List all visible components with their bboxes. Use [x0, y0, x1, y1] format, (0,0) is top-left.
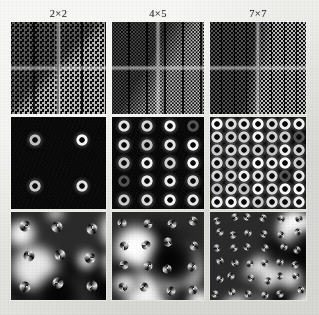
diffraction-spot: [117, 138, 130, 151]
diffraction-spot: [293, 170, 306, 183]
phase-vortex-singularity: [228, 231, 236, 239]
diffraction-spot: [265, 143, 278, 156]
diffraction-spot: [224, 143, 237, 156]
phase-vortex-singularity: [216, 275, 226, 285]
panel-far-field-4x5: [112, 117, 204, 209]
diffraction-spot: [117, 193, 130, 206]
panel-near-field-7x7: [210, 22, 306, 114]
diffraction-spot: [279, 157, 292, 170]
bright-cross-overlay: [11, 22, 106, 114]
column-header-row: 2×2 4×5 7×7: [11, 4, 306, 22]
diffraction-spot: [224, 170, 237, 183]
bright-cross-overlay: [210, 22, 306, 114]
column-header-7x7: 7×7: [210, 4, 306, 22]
diffraction-spot: [210, 143, 223, 156]
phase-vortex-singularity: [215, 227, 225, 237]
diffraction-spot: [163, 175, 176, 188]
panel-phase-map-2x2: [11, 212, 106, 300]
diffraction-spot: [252, 130, 265, 143]
phase-vortex-singularity: [243, 213, 253, 223]
row-phase-map: [11, 212, 306, 300]
diffraction-spot: [117, 120, 130, 133]
diffraction-spot: [265, 183, 278, 196]
diffraction-spot: [279, 183, 292, 196]
diffraction-spot: [210, 196, 223, 209]
diffraction-spot: [224, 130, 237, 143]
diffraction-spot: [186, 157, 199, 170]
diffraction-spot: [252, 196, 265, 209]
diffraction-spot: [252, 170, 265, 183]
diffraction-spot: [224, 183, 237, 196]
diffraction-spot: [140, 138, 153, 151]
diffraction-spot-layer: [112, 117, 204, 209]
diffraction-spot: [76, 180, 89, 193]
diffraction-spot: [252, 143, 265, 156]
diffraction-spot: [186, 175, 199, 188]
diffraction-spot: [238, 143, 251, 156]
panel-phase-map-7x7: [210, 212, 306, 300]
diffraction-spot: [186, 193, 199, 206]
phase-vortex-singularity: [84, 221, 99, 236]
diffraction-spot: [265, 130, 278, 143]
diffraction-spot: [28, 180, 41, 193]
diffraction-spot: [186, 120, 199, 133]
diffraction-spot-layer: [210, 117, 306, 209]
diffraction-spot: [163, 193, 176, 206]
phase-vortex-singularity: [243, 242, 253, 252]
diffraction-spot: [279, 170, 292, 183]
diffraction-spot: [265, 157, 278, 170]
diffraction-spot: [265, 170, 278, 183]
panel-near-field-4x5: [112, 22, 204, 114]
diffraction-spot: [238, 130, 251, 143]
diffraction-spot: [117, 175, 130, 188]
diffraction-spot: [279, 143, 292, 156]
diffraction-spot: [140, 193, 153, 206]
diffraction-spot: [252, 183, 265, 196]
phase-vortex-singularity: [259, 213, 269, 223]
diffraction-spot: [279, 196, 292, 209]
phase-vortex-singularity: [216, 257, 225, 266]
diffraction-spot: [279, 117, 292, 130]
diffraction-spot: [238, 196, 251, 209]
diffraction-spot: [238, 157, 251, 170]
diffraction-spot: [210, 157, 223, 170]
diffraction-spot: [186, 138, 199, 151]
diffraction-spot: [293, 196, 306, 209]
phase-vortex-singularity: [229, 243, 239, 253]
diffraction-spot: [163, 120, 176, 133]
diffraction-spot-layer: [11, 117, 106, 209]
bright-cross-overlay: [112, 22, 204, 114]
panel-far-field-2x2: [11, 117, 106, 209]
panel-far-field-7x7: [210, 117, 306, 209]
phase-vortex-singularity: [230, 258, 239, 267]
diffraction-spot: [224, 196, 237, 209]
diffraction-spot: [293, 143, 306, 156]
phase-bright-region: [44, 212, 67, 220]
diffraction-spot: [293, 130, 306, 143]
diffraction-spot: [265, 196, 278, 209]
diffraction-spot: [140, 157, 153, 170]
phase-vortex-singularity: [211, 290, 220, 299]
diffraction-spot: [293, 157, 306, 170]
diffraction-spot: [210, 170, 223, 183]
phase-vortex-singularity: [244, 228, 253, 237]
row-far-field: [11, 117, 306, 209]
diffraction-spot: [28, 134, 41, 147]
figure-panel-grid: 2×2 4×5 7×7: [0, 0, 319, 315]
diffraction-spot: [238, 117, 251, 130]
diffraction-spot: [279, 130, 292, 143]
diffraction-spot: [117, 157, 130, 170]
diffraction-spot: [238, 183, 251, 196]
diffraction-spot: [224, 157, 237, 170]
diffraction-spot: [252, 117, 265, 130]
diffraction-spot: [293, 117, 306, 130]
phase-vortex-singularity: [230, 212, 240, 222]
diffraction-spot: [210, 117, 223, 130]
phase-vortex-singularity: [49, 219, 64, 234]
diffraction-spot: [140, 175, 153, 188]
diffraction-spot: [76, 134, 89, 147]
diffraction-spot: [252, 157, 265, 170]
phase-vortex-singularity: [227, 288, 237, 298]
diffraction-spot: [140, 120, 153, 133]
column-header-2x2: 2×2: [11, 4, 106, 22]
